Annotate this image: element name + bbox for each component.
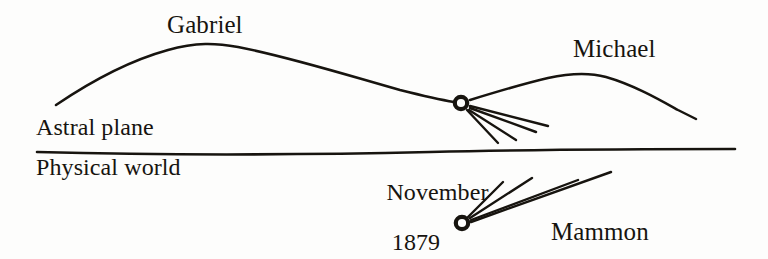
- michael-label: Michael: [573, 36, 656, 62]
- michael-trajectory: [470, 74, 696, 119]
- gabriel-label: Gabriel: [167, 12, 243, 38]
- diagram-canvas: Gabriel Michael Astral plane Physical wo…: [0, 0, 768, 259]
- gabriel-trajectory: [56, 44, 454, 105]
- event-date-year-label: 1879: [362, 230, 470, 255]
- astral-plane-label: Astral plane: [36, 115, 154, 140]
- event-date-month-label: November: [386, 179, 488, 205]
- physical-node-rays: [468, 172, 611, 222]
- physical-ray-4: [471, 172, 611, 222]
- event-date-label: November 1879: [362, 155, 470, 259]
- physical-world-label: Physical world: [36, 155, 181, 180]
- astral-node: [455, 97, 467, 109]
- mammon-label: Mammon: [551, 219, 649, 245]
- astral-node-rays: [467, 106, 548, 143]
